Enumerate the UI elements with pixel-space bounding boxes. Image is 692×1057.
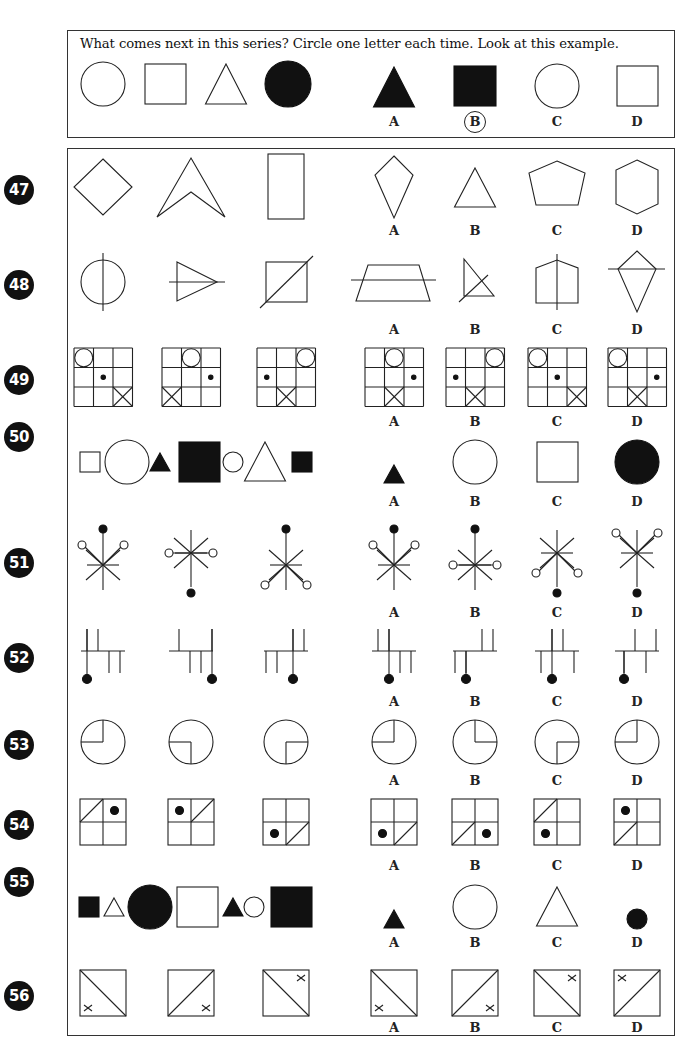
q50-option-d-label[interactable]: D bbox=[622, 494, 652, 509]
q55-option-c[interactable] bbox=[522, 872, 592, 942]
q56-option-d-label[interactable]: D bbox=[622, 1020, 652, 1035]
question-number-badge: 56 bbox=[4, 981, 34, 1011]
q47-option-c-label[interactable]: C bbox=[542, 223, 572, 238]
q55-option-d[interactable] bbox=[602, 872, 672, 942]
q50-option-b[interactable] bbox=[440, 427, 510, 497]
q55-option-b[interactable] bbox=[440, 872, 510, 942]
q54-option-d[interactable] bbox=[602, 787, 672, 857]
example-option-d-label[interactable]: D bbox=[622, 114, 652, 129]
q55-option-d-label[interactable]: D bbox=[622, 935, 652, 950]
q52-option-c[interactable] bbox=[522, 620, 592, 690]
q48-option-c[interactable] bbox=[522, 247, 592, 317]
q56-option-c-label[interactable]: C bbox=[542, 1020, 572, 1035]
q53-option-c-label[interactable]: C bbox=[542, 773, 572, 788]
q47-option-d[interactable] bbox=[602, 152, 672, 222]
q49-option-a[interactable] bbox=[359, 342, 429, 412]
q47-option-a[interactable] bbox=[359, 152, 429, 222]
q56-option-b[interactable] bbox=[440, 958, 510, 1028]
q48-option-b[interactable] bbox=[440, 247, 510, 317]
q48-option-d[interactable] bbox=[602, 247, 672, 317]
q51-option-d[interactable] bbox=[602, 525, 672, 595]
q51-option-c-label[interactable]: C bbox=[542, 605, 572, 620]
q47-option-c[interactable] bbox=[522, 152, 592, 222]
question-number-badge: 48 bbox=[4, 270, 34, 300]
q56-option-b-label[interactable]: B bbox=[460, 1020, 490, 1035]
question-number-badge: 51 bbox=[4, 548, 34, 578]
q47-option-a-label[interactable]: A bbox=[379, 223, 409, 238]
q56-option-a[interactable] bbox=[359, 958, 429, 1028]
q49-option-c[interactable] bbox=[522, 342, 592, 412]
q50-option-a-label[interactable]: A bbox=[379, 494, 409, 509]
q56-option-c[interactable] bbox=[522, 958, 592, 1028]
q47-option-d-label[interactable]: D bbox=[622, 223, 652, 238]
q53-option-d-label[interactable]: D bbox=[622, 773, 652, 788]
q47-option-b[interactable] bbox=[440, 152, 510, 222]
q54-option-a-label[interactable]: A bbox=[379, 858, 409, 873]
q51-option-b[interactable] bbox=[440, 525, 510, 595]
q53-option-b-label[interactable]: B bbox=[460, 773, 490, 788]
q52-option-b[interactable] bbox=[440, 620, 510, 690]
question-number-badge: 55 bbox=[4, 867, 34, 897]
q50-option-c-label[interactable]: C bbox=[542, 494, 572, 509]
q53-option-d[interactable] bbox=[602, 707, 672, 777]
q55-option-a[interactable] bbox=[359, 872, 429, 942]
question-number-badge: 54 bbox=[4, 810, 34, 840]
q50-option-b-label[interactable]: B bbox=[460, 494, 490, 509]
question-number-badge: 49 bbox=[4, 365, 34, 395]
q54-option-b-label[interactable]: B bbox=[460, 858, 490, 873]
q51-option-b-label[interactable]: B bbox=[460, 605, 490, 620]
q48-option-b-label[interactable]: B bbox=[460, 322, 490, 337]
example-option-c-label[interactable]: C bbox=[542, 114, 572, 129]
q56-option-d[interactable] bbox=[602, 958, 672, 1028]
example-option-b-label[interactable]: B bbox=[464, 111, 486, 133]
q54-option-d-label[interactable]: D bbox=[622, 858, 652, 873]
q53-option-a[interactable] bbox=[359, 707, 429, 777]
q48-option-c-label[interactable]: C bbox=[542, 322, 572, 337]
q52-option-d[interactable] bbox=[602, 620, 672, 690]
question-number-badge: 53 bbox=[4, 730, 34, 760]
q54-option-b[interactable] bbox=[440, 787, 510, 857]
q51-option-c[interactable] bbox=[522, 525, 592, 595]
question-number-badge: 47 bbox=[4, 175, 34, 205]
example-option-a-label[interactable]: A bbox=[379, 114, 409, 129]
q53-option-b[interactable] bbox=[440, 707, 510, 777]
q51-option-a-label[interactable]: A bbox=[379, 605, 409, 620]
q55-option-a-label[interactable]: A bbox=[379, 935, 409, 950]
instruction-text: What comes next in this series? Circle o… bbox=[80, 36, 619, 51]
q51-option-a[interactable] bbox=[359, 525, 429, 595]
q55-option-b-label[interactable]: B bbox=[460, 935, 490, 950]
q53-option-a-label[interactable]: A bbox=[379, 773, 409, 788]
q48-option-d-label[interactable]: D bbox=[622, 322, 652, 337]
q48-option-a[interactable] bbox=[359, 247, 429, 317]
q54-option-a[interactable] bbox=[359, 787, 429, 857]
q55-option-c-label[interactable]: C bbox=[542, 935, 572, 950]
q50-option-c[interactable] bbox=[522, 427, 592, 497]
q48-option-a-label[interactable]: A bbox=[379, 322, 409, 337]
q56-option-a-label[interactable]: A bbox=[379, 1020, 409, 1035]
q54-option-c[interactable] bbox=[522, 787, 592, 857]
q49-option-b[interactable] bbox=[440, 342, 510, 412]
question-number-badge: 52 bbox=[4, 643, 34, 673]
question-number-badge: 50 bbox=[4, 422, 34, 452]
q53-option-c[interactable] bbox=[522, 707, 592, 777]
q47-option-b-label[interactable]: B bbox=[460, 223, 490, 238]
q51-option-d-label[interactable]: D bbox=[622, 605, 652, 620]
q54-option-c-label[interactable]: C bbox=[542, 858, 572, 873]
q52-option-a[interactable] bbox=[359, 620, 429, 690]
q50-option-a[interactable] bbox=[359, 427, 429, 497]
q50-option-d[interactable] bbox=[602, 427, 672, 497]
q49-option-d[interactable] bbox=[602, 342, 672, 412]
